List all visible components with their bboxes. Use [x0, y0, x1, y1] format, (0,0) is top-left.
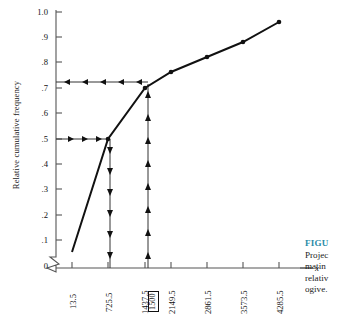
x-tick-label: 13.5 — [68, 294, 78, 309]
y-tick-label: .6 — [26, 108, 48, 118]
x-tick-label: 2149.5 — [167, 290, 177, 314]
figure-caption-line: matin — [305, 261, 346, 273]
y-axis — [47, 10, 59, 272]
data-point — [241, 40, 246, 45]
drop-line-median — [107, 139, 113, 268]
x-tick-label: 3573.5 — [239, 290, 249, 314]
ogive-series — [72, 20, 281, 252]
figure-caption-line: relativ — [305, 273, 346, 285]
y-tick-label: 0 — [26, 261, 48, 271]
y-tick-label: .7 — [26, 83, 48, 93]
y-tick-label: .9 — [26, 32, 48, 42]
axis-break-zigzag — [47, 251, 59, 272]
x-tick-label: 4285.5 — [275, 290, 285, 314]
data-point — [169, 70, 174, 75]
x-tick-label: 725.5 — [104, 293, 114, 312]
figure-caption-line: Projec — [305, 250, 346, 262]
data-point — [106, 137, 111, 142]
y-tick-label: .5 — [26, 134, 48, 144]
reference-line-0725 — [56, 79, 148, 85]
data-point — [143, 86, 148, 91]
y-tick-label: .4 — [26, 159, 48, 169]
y-tick-label: .1 — [26, 235, 48, 245]
ogive-chart-figure: Relative cumulative frequency 1.0 .9 .8 … — [0, 0, 346, 322]
x-tick-label: 2861.5 — [203, 290, 213, 314]
figure-caption-line: ogive. — [305, 284, 346, 296]
chart-plot-area — [0, 0, 346, 322]
y-tick-label: .2 — [26, 210, 48, 220]
reference-line-half — [56, 136, 110, 142]
y-axis-title: Relative cumulative frequency — [11, 35, 21, 235]
x-tick-marks — [72, 262, 279, 268]
rise-line-1500 — [145, 84, 151, 268]
figure-caption-label: FIGU — [305, 238, 346, 250]
y-tick-label: .3 — [26, 184, 48, 194]
y-tick-label: .8 — [26, 57, 48, 67]
y-tick-label: 1.0 — [26, 7, 48, 17]
data-point — [205, 55, 210, 60]
y-tick-marks — [56, 12, 62, 240]
data-point — [277, 20, 282, 25]
boxed-x-value-1500: 1500 — [148, 291, 159, 312]
figure-caption: FIGU Projec matin relativ ogive. — [305, 238, 346, 296]
